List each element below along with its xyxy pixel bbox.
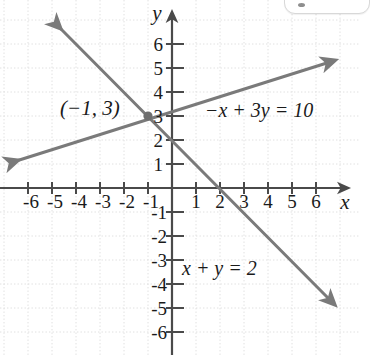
y-tick-label: 2 (154, 130, 164, 151)
x-tick-label: -5 (47, 191, 63, 212)
x-axis-label: x (339, 190, 350, 214)
cropped-toolbar-chip[interactable] (284, 0, 370, 14)
y-tick-label: -2 (151, 226, 167, 247)
x-tick-label: 4 (263, 191, 273, 212)
x-tick-label: 3 (239, 191, 249, 212)
x-tick-label: 1 (191, 191, 201, 212)
x-tick-label: -3 (95, 191, 111, 212)
y-tick-label: -1 (151, 202, 167, 223)
x-tick-label: -6 (23, 191, 39, 212)
x-tick-label: -4 (71, 191, 87, 212)
y-tick-label: -5 (151, 298, 167, 319)
chip-dot-icon (298, 3, 305, 7)
y-tick-label: -4 (151, 274, 167, 295)
y-axis-label: y (150, 1, 162, 25)
equation-label-lower: x + y = 2 (181, 257, 257, 280)
y-tick-label: 4 (154, 82, 164, 103)
x-tick-label: -2 (119, 191, 135, 212)
y-tick-label: 1 (154, 154, 164, 175)
intersection-point-label: (−1, 3) (60, 96, 120, 120)
x-tick-label: 5 (287, 191, 297, 212)
y-tick-label: 6 (154, 34, 164, 55)
y-tick-label: -3 (151, 250, 167, 271)
x-tick-label: 2 (215, 191, 225, 212)
intersection-point (143, 111, 152, 120)
x-tick-label: 6 (311, 191, 321, 212)
equation-label-upper: −x + 3y = 10 (205, 99, 313, 122)
y-tick-label: 3 (154, 106, 164, 127)
y-tick-label: 5 (154, 58, 164, 79)
y-tick-label: -6 (151, 322, 167, 343)
